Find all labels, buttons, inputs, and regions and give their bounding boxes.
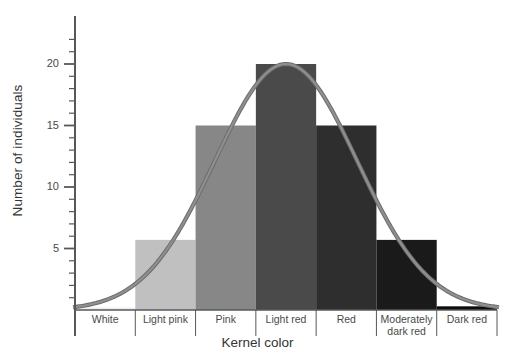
category-label-light-red: Light red (256, 314, 316, 326)
y-tick-label-20: 20 (33, 57, 59, 69)
category-label-pink: Pink (196, 314, 256, 326)
bar-chart: Number of individuals 5101520 WhiteLight… (0, 0, 515, 354)
bar-red (316, 126, 376, 311)
x-axis-label: Kernel color (0, 335, 515, 350)
y-tick-label-10: 10 (33, 180, 59, 192)
category-label-white: White (75, 314, 135, 326)
category-label-light-pink: Light pink (135, 314, 195, 326)
category-label-red: Red (316, 314, 376, 326)
chart-canvas (0, 0, 515, 354)
bars-group (75, 64, 497, 310)
y-tick-label-15: 15 (33, 119, 59, 131)
category-label-moderately-dark-red: Moderately dark red (376, 314, 436, 337)
bar-pink (196, 126, 256, 311)
y-tick-label-5: 5 (33, 242, 59, 254)
bar-light-red (256, 64, 316, 310)
category-label-dark-red: Dark red (437, 314, 497, 326)
